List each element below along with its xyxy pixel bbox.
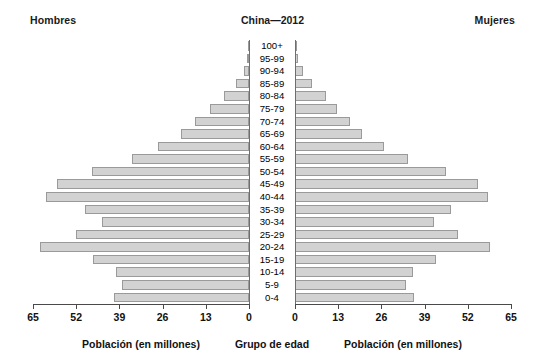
age-group-label: 70-74 xyxy=(249,116,295,128)
pyramid-row: 15-19 xyxy=(0,254,545,267)
pyramid-row: 85-89 xyxy=(0,78,545,91)
x-tick-left xyxy=(206,304,207,309)
bar-male xyxy=(46,192,249,202)
bar-male xyxy=(210,104,249,114)
bar-male xyxy=(195,117,249,127)
bar-female xyxy=(295,255,436,265)
age-group-label: 80-84 xyxy=(249,90,295,102)
axis-title-center: Grupo de edad xyxy=(235,338,309,350)
bar-male xyxy=(57,179,249,189)
x-tick-label-right: 65 xyxy=(505,311,517,323)
bar-female xyxy=(295,267,413,277)
chart-title: China—2012 xyxy=(0,14,545,26)
bar-male xyxy=(181,129,249,139)
bar-female xyxy=(295,66,303,76)
pyramid-row: 0-4 xyxy=(0,291,545,304)
x-tick-right xyxy=(468,304,469,309)
bar-male xyxy=(236,79,249,89)
plot-area: 100+95-9990-9485-8980-8475-7970-7465-696… xyxy=(0,40,545,306)
bar-female xyxy=(295,142,384,152)
x-tick-right xyxy=(381,304,382,309)
x-tick-label-left: 13 xyxy=(200,311,212,323)
bar-male xyxy=(85,205,249,215)
bar-female xyxy=(295,293,414,303)
x-tick-right xyxy=(511,304,512,309)
population-pyramid-chart: Hombres China—2012 Mujeres 100+95-9990-9… xyxy=(0,0,545,356)
x-tick-right xyxy=(425,304,426,309)
pyramid-row: 20-24 xyxy=(0,241,545,254)
bar-male xyxy=(102,217,249,227)
x-tick-label-left: 0 xyxy=(246,311,252,323)
x-axis-left xyxy=(33,304,250,305)
pyramid-row: 50-54 xyxy=(0,166,545,179)
bar-female xyxy=(295,167,446,177)
chart-right-header: Mujeres xyxy=(475,14,515,26)
bar-male xyxy=(132,154,249,164)
age-group-label: 45-49 xyxy=(249,178,295,190)
pyramid-row: 65-69 xyxy=(0,128,545,141)
age-group-label: 65-69 xyxy=(249,128,295,140)
pyramid-row: 35-39 xyxy=(0,203,545,216)
age-group-label: 15-19 xyxy=(249,254,295,266)
bar-female xyxy=(295,242,490,252)
age-group-label: 100+ xyxy=(249,40,295,52)
x-tick-label-right: 26 xyxy=(376,311,388,323)
x-tick-label-left: 65 xyxy=(27,311,39,323)
axis-title-left: Población (en millones) xyxy=(82,338,200,350)
bar-female xyxy=(295,230,458,240)
bar-female xyxy=(295,217,434,227)
age-group-label: 25-29 xyxy=(249,229,295,241)
pyramid-row: 55-59 xyxy=(0,153,545,166)
x-tick-left xyxy=(163,304,164,309)
bar-female xyxy=(295,205,451,215)
bar-male xyxy=(114,293,249,303)
x-tick-label-right: 52 xyxy=(462,311,474,323)
x-tick-label-right: 39 xyxy=(419,311,431,323)
pyramid-row: 75-79 xyxy=(0,103,545,116)
center-rule-left xyxy=(249,40,250,304)
x-tick-left xyxy=(76,304,77,309)
x-axis-right xyxy=(295,304,511,305)
bar-male xyxy=(93,255,249,265)
bar-male xyxy=(158,142,249,152)
age-group-label: 60-64 xyxy=(249,141,295,153)
age-group-label: 0-4 xyxy=(249,292,295,304)
axis-title-right: Población (en millones) xyxy=(344,338,462,350)
x-tick-label-left: 26 xyxy=(157,311,169,323)
bar-male xyxy=(76,230,249,240)
pyramid-row: 70-74 xyxy=(0,115,545,128)
x-tick-left xyxy=(33,304,34,309)
pyramid-row: 30-34 xyxy=(0,216,545,229)
age-group-label: 30-34 xyxy=(249,216,295,228)
x-tick-left xyxy=(249,304,250,309)
bar-female xyxy=(295,179,478,189)
bar-female xyxy=(295,154,408,164)
bar-male xyxy=(116,267,249,277)
bar-male xyxy=(224,91,249,101)
age-group-label: 55-59 xyxy=(249,153,295,165)
bar-male xyxy=(92,167,249,177)
pyramid-row: 45-49 xyxy=(0,178,545,191)
pyramid-row: 5-9 xyxy=(0,279,545,292)
age-group-label: 5-9 xyxy=(249,279,295,291)
age-group-label: 75-79 xyxy=(249,103,295,115)
bar-male xyxy=(40,242,249,252)
age-group-label: 35-39 xyxy=(249,204,295,216)
age-group-label: 90-94 xyxy=(249,65,295,77)
bar-female xyxy=(295,104,337,114)
bar-male xyxy=(122,280,249,290)
age-group-label: 95-99 xyxy=(249,53,295,65)
x-tick-right xyxy=(338,304,339,309)
pyramid-row: 60-64 xyxy=(0,141,545,154)
x-tick-left xyxy=(119,304,120,309)
x-tick-right xyxy=(295,304,296,309)
x-tick-label-left: 39 xyxy=(114,311,126,323)
bar-female xyxy=(295,79,312,89)
pyramid-row: 10-14 xyxy=(0,266,545,279)
x-tick-label-right: 13 xyxy=(332,311,344,323)
pyramid-row: 95-99 xyxy=(0,53,545,66)
bar-female xyxy=(295,192,488,202)
age-group-label: 50-54 xyxy=(249,166,295,178)
pyramid-row: 40-44 xyxy=(0,191,545,204)
center-rule-right xyxy=(295,40,296,304)
